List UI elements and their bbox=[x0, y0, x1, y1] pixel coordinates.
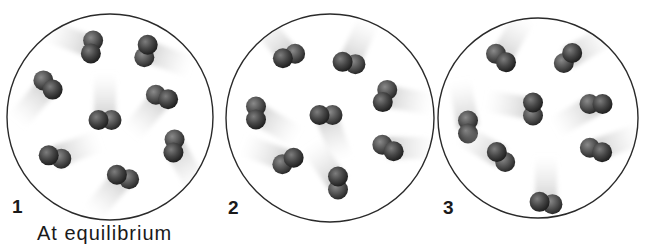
molecule bbox=[554, 24, 615, 73]
molecule bbox=[9, 70, 63, 128]
molecule bbox=[39, 130, 104, 168]
atom bbox=[593, 94, 613, 114]
equilibrium-diagram bbox=[0, 0, 655, 249]
atom bbox=[43, 80, 63, 100]
atom bbox=[138, 35, 158, 55]
atom bbox=[562, 43, 582, 63]
atom bbox=[163, 142, 183, 162]
molecule bbox=[89, 72, 122, 130]
atom bbox=[107, 165, 127, 185]
atom bbox=[284, 148, 304, 168]
atom bbox=[592, 142, 612, 162]
atom bbox=[246, 110, 266, 130]
molecule bbox=[84, 165, 139, 221]
molecule bbox=[43, 20, 103, 63]
atom bbox=[496, 52, 516, 72]
panel-1 bbox=[7, 14, 213, 221]
atom bbox=[158, 89, 178, 109]
atom bbox=[487, 142, 507, 162]
atom bbox=[333, 52, 353, 72]
molecule bbox=[373, 80, 434, 115]
panel-label-2: 2 bbox=[228, 197, 239, 219]
molecule bbox=[134, 35, 195, 78]
atom bbox=[81, 43, 101, 63]
atom bbox=[530, 192, 550, 212]
molecule bbox=[484, 90, 543, 126]
atom bbox=[39, 145, 59, 165]
atom bbox=[328, 167, 348, 187]
molecule bbox=[163, 130, 207, 194]
atom bbox=[89, 110, 109, 130]
panel-3 bbox=[438, 11, 645, 218]
molecule bbox=[486, 11, 535, 72]
molecule bbox=[549, 94, 613, 138]
atom bbox=[273, 48, 293, 68]
molecule bbox=[454, 123, 515, 172]
atom bbox=[373, 92, 393, 112]
caption-at-equilibrium: At equilibrium bbox=[37, 222, 172, 245]
atom bbox=[523, 93, 543, 113]
atom bbox=[310, 105, 330, 125]
panel-label-3: 3 bbox=[443, 197, 454, 219]
panel-2 bbox=[226, 12, 436, 222]
molecule bbox=[333, 15, 380, 74]
panel-label-1: 1 bbox=[12, 196, 23, 218]
molecule bbox=[530, 155, 563, 214]
atom bbox=[384, 141, 404, 161]
molecule bbox=[250, 12, 305, 68]
